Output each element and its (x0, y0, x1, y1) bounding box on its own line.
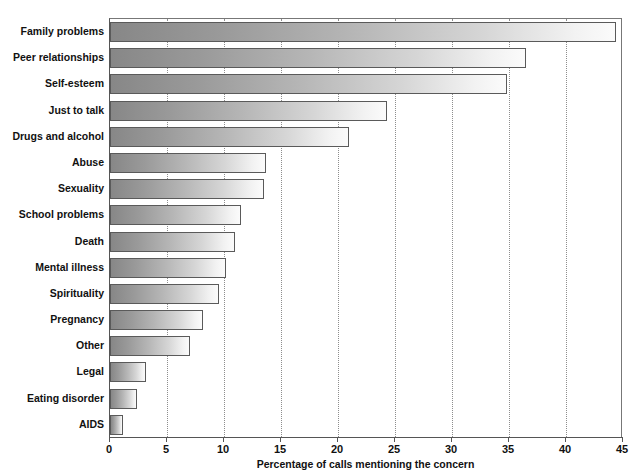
category-label: Drugs and alcohol (0, 123, 104, 149)
x-tick-mark (508, 437, 509, 442)
bar[interactable] (110, 258, 226, 278)
bar[interactable] (110, 179, 264, 199)
x-tick-label: 20 (331, 443, 343, 455)
category-label: Peer relationships (0, 44, 104, 70)
bar[interactable] (110, 22, 616, 42)
category-label: Other (0, 332, 104, 358)
category-label: Abuse (0, 149, 104, 175)
x-tick-label: 45 (616, 443, 628, 455)
category-label: Mental illness (0, 254, 104, 280)
x-tick-label: 25 (388, 443, 400, 455)
bar-row (110, 71, 621, 97)
bar[interactable] (110, 205, 241, 225)
bar-row (110, 255, 621, 281)
bar[interactable] (110, 336, 190, 356)
chart-title (109, 0, 622, 2)
x-tick-label: 15 (274, 443, 286, 455)
category-label: AIDS (0, 411, 104, 437)
x-tick-mark (622, 437, 623, 442)
bar-row (110, 176, 621, 202)
bar-row (110, 98, 621, 124)
x-tick-mark (223, 437, 224, 442)
bar-row (110, 333, 621, 359)
bar[interactable] (110, 127, 349, 147)
category-label: Pregnancy (0, 306, 104, 332)
category-label: Sexuality (0, 175, 104, 201)
horizontal-bar-chart: Family problemsPeer relationshipsSelf-es… (0, 0, 640, 473)
bar-row (110, 202, 621, 228)
x-tick-label: 10 (217, 443, 229, 455)
plot-area (109, 18, 622, 437)
bar[interactable] (110, 232, 235, 252)
bar-row (110, 307, 621, 333)
x-tick-label: 30 (445, 443, 457, 455)
category-label: Eating disorder (0, 385, 104, 411)
category-label: Spirituality (0, 280, 104, 306)
category-label: Death (0, 228, 104, 254)
bar[interactable] (110, 284, 219, 304)
bar-row (110, 45, 621, 71)
bar[interactable] (110, 101, 387, 121)
x-axis-tick-labels: 051015202530354045 (0, 443, 640, 457)
bars-layer (110, 19, 621, 437)
bar-row (110, 19, 621, 45)
bar[interactable] (110, 74, 507, 94)
category-axis-labels: Family problemsPeer relationshipsSelf-es… (0, 18, 104, 437)
bar-row (110, 281, 621, 307)
bar-row (110, 229, 621, 255)
x-tick-mark (109, 437, 110, 442)
bar-row (110, 412, 621, 438)
x-tick-label: 0 (106, 443, 112, 455)
category-label: Self-esteem (0, 70, 104, 96)
category-label: Family problems (0, 18, 104, 44)
bar[interactable] (110, 153, 266, 173)
x-tick-mark (166, 437, 167, 442)
category-label: Just to talk (0, 97, 104, 123)
bar[interactable] (110, 389, 137, 409)
x-tick-mark (337, 437, 338, 442)
x-tick-label: 5 (163, 443, 169, 455)
x-tick-label: 40 (559, 443, 571, 455)
bar[interactable] (110, 310, 203, 330)
category-label: School problems (0, 201, 104, 227)
bar-row (110, 150, 621, 176)
bar[interactable] (110, 48, 526, 68)
x-tick-mark (394, 437, 395, 442)
x-tick-mark (565, 437, 566, 442)
x-tick-mark (280, 437, 281, 442)
x-tick-mark (451, 437, 452, 442)
category-label: Legal (0, 358, 104, 384)
bar[interactable] (110, 362, 146, 382)
bar-row (110, 359, 621, 385)
bar-row (110, 124, 621, 150)
x-tick-label: 35 (502, 443, 514, 455)
bar[interactable] (110, 415, 123, 435)
bar-row (110, 386, 621, 412)
x-axis-title: Percentage of calls mentioning the conce… (109, 458, 622, 470)
